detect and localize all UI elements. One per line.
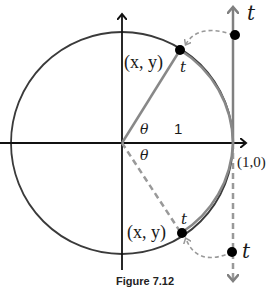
label-lower-point: (x, y) xyxy=(127,222,166,243)
upper-point-dot xyxy=(175,45,185,55)
label-theta-lower: θ xyxy=(140,147,149,163)
label-upper-point: (x, y) xyxy=(124,52,163,73)
arc-lower xyxy=(181,143,233,233)
label-upper-arc-t: t xyxy=(180,58,187,76)
lower-point-dot xyxy=(177,228,187,238)
arc-upper xyxy=(180,50,233,143)
radius-lower xyxy=(122,143,181,233)
label-theta-upper: θ xyxy=(140,121,149,137)
unit-circle-diagram: (x, y) t t θ 1 θ (1,0) (x, y) t t Figure… xyxy=(0,0,273,289)
wrap-arrow-upper xyxy=(186,31,233,44)
figure-caption: Figure 7.12 xyxy=(116,275,174,287)
label-radius: 1 xyxy=(174,120,182,137)
label-point-1-0: (1,0) xyxy=(237,154,266,171)
lower-t-dot xyxy=(227,247,237,257)
label-axis-t: t xyxy=(247,1,256,25)
label-lower-line-t: t xyxy=(242,239,251,263)
wrap-arrow-lower xyxy=(186,239,232,258)
label-lower-arc-t: t xyxy=(181,210,188,228)
upper-t-dot xyxy=(230,30,240,40)
